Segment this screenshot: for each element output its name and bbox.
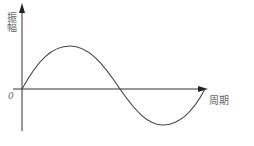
x-axis-label: 周期: [209, 92, 229, 107]
y-axis-arrow-icon: [19, 3, 25, 13]
origin-label: 0: [8, 91, 14, 101]
y-axis-label: 振幅: [4, 12, 16, 32]
x-axis-arrow-icon: [198, 86, 208, 92]
sine-curve: [22, 46, 205, 125]
diagram-canvas: [0, 0, 254, 146]
sine-wave-diagram: 振幅 周期 0: [0, 0, 254, 146]
